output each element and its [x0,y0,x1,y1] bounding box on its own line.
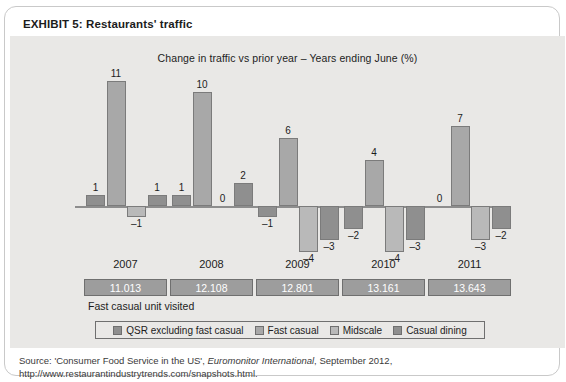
data-table-row: 11.01312.10812.80113.16113.643 [70,279,510,297]
bar-value-label: 4 [361,147,388,158]
legend-item-midscale[interactable]: Midscale [330,325,382,336]
bar-chart-plot: 111–1111002–16–4–3–24–4–307–3–2 [70,66,510,248]
bar-value-label: 2 [230,170,257,181]
year-label-2008: 2008 [170,258,253,270]
year-label-2010: 2010 [342,258,425,270]
legend-item-qsr-excluding-fast-casual[interactable]: QSR excluding fast casual [113,325,243,336]
exhibit-frame: EXHIBIT 5: Restaurants' traffic Change i… [4,6,560,376]
bar-value-label: 11 [103,68,130,79]
bar-value-label: 1 [144,182,171,193]
bar-2007-midscale [127,206,146,217]
bar-value-label: –3 [402,241,429,252]
legend-item-casual-dining[interactable]: Casual dining [393,325,467,336]
legend-label: Casual dining [406,325,467,336]
bar-value-label: 0 [209,193,236,204]
data-table-cell-2009: 12.801 [256,279,339,296]
bar-value-label: –3 [316,241,343,252]
exhibit-number-label: EXHIBIT 5: [23,18,83,30]
bar-2008-casual-dining [234,183,253,206]
bar-2007-fast-casual [107,81,126,206]
bar-value-label: 10 [189,79,216,90]
bar-value-label: –2 [488,230,515,241]
bar-2009-casual-dining [320,206,339,240]
bar-2009-qsr-excluding-fast-casual [258,206,277,217]
bar-2007-casual-dining [148,195,167,206]
chart-legend: QSR excluding fast casualFast casualMids… [95,321,485,339]
bar-value-label: –1 [254,218,281,229]
legend-item-fast-casual[interactable]: Fast casual [255,325,319,336]
data-table-caption: Fast casual unit visited [88,300,194,312]
year-label-2011: 2011 [428,258,511,270]
year-label-2007: 2007 [84,258,167,270]
bar-value-label: –2 [340,230,367,241]
bar-value-label: 0 [426,193,453,204]
data-table-cell-2007: 11.013 [84,279,167,296]
bar-value-label: 6 [275,125,302,136]
chart-panel: Change in traffic vs prior year – Years … [10,36,565,348]
bar-2009-fast-casual [279,138,298,206]
source-prefix: Source: 'Consumer Food Service in the US… [19,355,205,366]
data-table-cell-2010: 13.161 [342,279,425,296]
bar-2008-qsr-excluding-fast-casual [172,195,191,206]
bar-2010-qsr-excluding-fast-casual [344,206,363,229]
exhibit-title: EXHIBIT 5: Restaurants' traffic [23,18,192,30]
year-label-2009: 2009 [256,258,339,270]
legend-label: Midscale [343,325,382,336]
legend-swatch-icon [255,326,264,335]
bar-value-label: –3 [467,241,494,252]
source-note: Source: 'Consumer Food Service in the US… [19,354,557,380]
bar-value-label: 1 [168,182,195,193]
year-axis: 20072008200920102011 [70,258,510,274]
legend-swatch-icon [393,326,402,335]
data-table-cell-2008: 12.108 [170,279,253,296]
exhibit-name-label: Restaurants' traffic [86,18,192,30]
bar-value-label: –1 [123,218,150,229]
data-table-cell-2011: 13.643 [428,279,511,296]
legend-swatch-icon [330,326,339,335]
chart-subtitle: Change in traffic vs prior year – Years … [10,52,565,64]
bar-2010-casual-dining [406,206,425,240]
legend-label: Fast casual [268,325,319,336]
bar-2011-casual-dining [492,206,511,229]
legend-swatch-icon [113,326,122,335]
source-publication: Euromonitor International [207,355,314,366]
bar-2011-fast-casual [451,126,470,206]
legend-label: QSR excluding fast casual [126,325,243,336]
bar-2010-fast-casual [365,160,384,206]
bar-2007-qsr-excluding-fast-casual [86,195,105,206]
bar-2008-fast-casual [193,92,212,206]
bar-value-label: 7 [447,113,474,124]
bar-value-label: 1 [82,182,109,193]
